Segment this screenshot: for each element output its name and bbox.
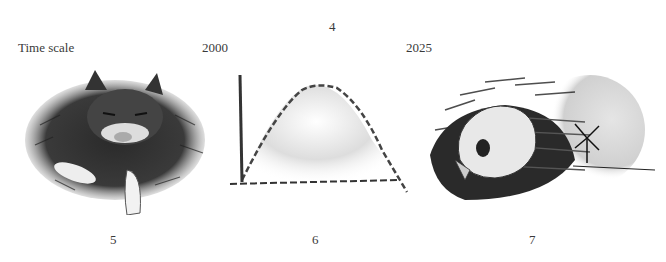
year-end-label: 2025	[406, 40, 432, 56]
panel-number-5: 5	[110, 232, 117, 248]
year-start-label: 2000	[202, 40, 228, 56]
panel-number-7: 7	[529, 232, 536, 248]
panel-number-6: 6	[312, 232, 319, 248]
time-scale-label: Time scale	[18, 40, 74, 56]
figure-number: 4	[329, 19, 336, 35]
skull-windmill-illustration	[425, 70, 660, 210]
cat-illustration	[15, 65, 215, 215]
curve-illustration	[222, 70, 422, 200]
